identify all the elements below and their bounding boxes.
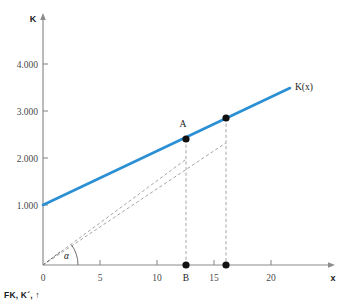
cost-function-chart: 4.000 3.000 2.000 1.000 0 5 10 B 15 20 K… [0, 0, 344, 307]
x-tick-label-10: 10 [152, 273, 162, 283]
y-tick-label-2000: 2.000 [17, 154, 39, 164]
angle-label-alpha: α [64, 251, 70, 261]
axis-point-P2 [222, 261, 229, 268]
x-axis-title: x [330, 273, 335, 283]
y-tick-label-3000: 3.000 [17, 107, 39, 117]
data-point-P2 [222, 114, 229, 121]
x-tick-label-15: 15 [209, 273, 219, 283]
series-label-Kx: K(x) [295, 82, 313, 93]
series-line-Kx [43, 88, 290, 205]
x-tick-label-B: B [183, 273, 189, 283]
secant-line-origin-to-A [43, 159, 186, 265]
angle-arc [72, 245, 79, 265]
data-point-label-A: A [180, 119, 187, 129]
y-axis-title: K [30, 14, 37, 24]
x-tick-label-20: 20 [266, 273, 276, 283]
x-tick-label-5: 5 [98, 273, 103, 283]
footer-caption: FK, K´, ↑ [4, 290, 40, 300]
x-axis-arrow-icon [328, 262, 335, 268]
y-tick-label-1000: 1.000 [17, 201, 39, 211]
chart-container: 4.000 3.000 2.000 1.000 0 5 10 B 15 20 K… [0, 0, 344, 307]
data-points-group: A [180, 114, 230, 268]
y-axis-arrow-icon [40, 13, 46, 20]
x-ticks-group: 0 5 10 B 15 20 [41, 260, 276, 283]
axis-point-B [182, 261, 189, 268]
drop-lines-group [186, 118, 226, 263]
data-point-A [182, 135, 189, 142]
x-tick-label-0: 0 [41, 273, 46, 283]
y-tick-label-4000: 4.000 [17, 60, 39, 70]
